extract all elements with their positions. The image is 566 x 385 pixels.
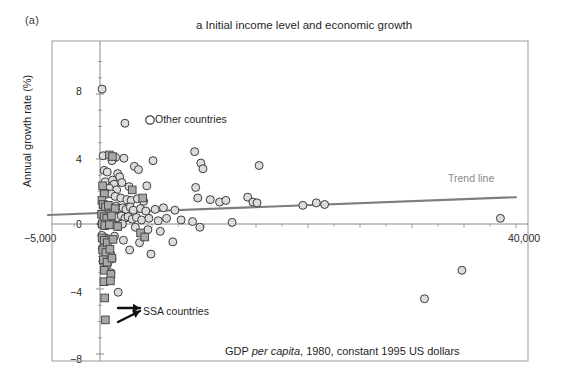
points-other-countries bbox=[98, 85, 505, 303]
figure-panel-a: (a) a Initial income level and economic … bbox=[0, 0, 566, 385]
scatter-plot-svg bbox=[0, 0, 566, 385]
